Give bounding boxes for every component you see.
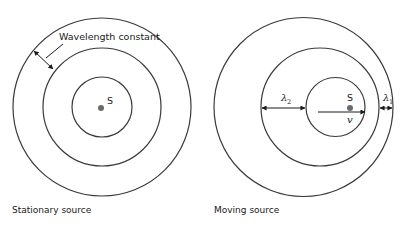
lambda-1-subscript: 1 [389, 98, 393, 106]
source-dot [98, 105, 104, 111]
annotation-leader-line [46, 44, 63, 58]
moving-source-diagram: S v λ 2 λ 1 Moving source [214, 18, 393, 216]
doppler-diagram: S Wavelength constant Stationary source … [0, 0, 403, 230]
lambda-2-subscript: 2 [287, 98, 291, 106]
source-label: S [107, 95, 113, 106]
source-label: S [347, 92, 353, 103]
stationary-source-diagram: S Wavelength constant Stationary source [12, 18, 191, 215]
wavefront-inner [306, 78, 365, 137]
stationary-source-caption: Stationary source [12, 205, 92, 215]
wavefront-middle [261, 48, 379, 166]
moving-source-caption: Moving source [214, 205, 280, 215]
wavefront-outer [214, 18, 393, 197]
velocity-label: v [347, 114, 353, 125]
wavelength-arrow [34, 51, 53, 69]
wavelength-constant-label: Wavelength constant [59, 31, 160, 42]
source-dot [347, 105, 353, 111]
